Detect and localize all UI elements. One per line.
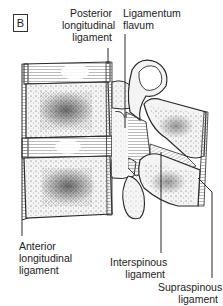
label-line: Interspinous	[110, 256, 165, 268]
label-line: Ligamentum	[123, 7, 181, 19]
label-anterior-longitudinal-ligament: Anterior longitudinal ligament	[19, 240, 72, 276]
label-interspinous-ligament: Interspinous ligament	[110, 256, 165, 280]
posterior-longitudinal-ligament	[106, 62, 112, 215]
label-supraspinous-ligament: Supraspinous ligament	[158, 281, 218, 305]
label-posterior-longitudinal-ligament: Posterior longitudinal ligament	[62, 7, 112, 43]
label-line: longitudinal	[62, 19, 112, 31]
vertebral-bodies	[22, 62, 112, 218]
label-line: Anterior	[19, 240, 72, 252]
label-line: ligament	[110, 268, 165, 280]
label-line: Posterior	[62, 7, 112, 19]
label-ligamentum-flavum: Ligamentum flavum	[123, 7, 181, 31]
label-line: ligament	[19, 264, 72, 276]
label-line: ligament	[62, 31, 112, 43]
label-line: Supraspinous	[158, 281, 218, 293]
posterior-elements	[112, 60, 208, 219]
label-line: flavum	[123, 19, 181, 31]
label-line: longitudinal	[19, 252, 72, 264]
label-line: ligament	[158, 293, 218, 305]
